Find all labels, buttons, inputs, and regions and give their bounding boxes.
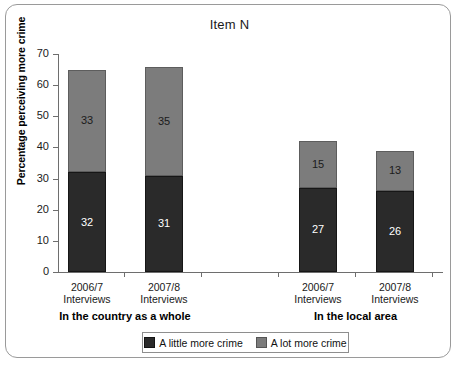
bar-country-2007-8[interactable]: 35 31 [145, 67, 183, 273]
bar-local-2006-7[interactable]: 15 27 [299, 141, 337, 272]
y-tick-70 [53, 54, 58, 55]
y-tick-60 [53, 85, 58, 86]
bar-local-2007-8[interactable]: 13 26 [376, 151, 414, 273]
x-category-label-line1: 2006/7 [283, 281, 353, 293]
legend-swatch-icon [256, 337, 267, 348]
y-tick-30 [53, 179, 58, 180]
x-category-label-line1: 2007/8 [360, 281, 430, 293]
bar-value-label-top: 15 [312, 159, 324, 170]
bar-value-label-bottom: 26 [389, 226, 401, 237]
bar-segment-a-lot-more-crime[interactable]: 33 [68, 70, 106, 173]
y-tick-10 [53, 241, 58, 242]
x-category-label-local-2006-7: 2006/7 Interviews [283, 281, 353, 305]
y-tick-label-60: 60 [5, 78, 49, 90]
bar-value-label-bottom: 31 [158, 218, 170, 229]
legend-label: A lot more crime [271, 337, 347, 349]
bar-segment-a-little-more-crime[interactable]: 26 [376, 191, 414, 272]
y-tick-label-10: 10 [5, 234, 49, 246]
y-tick-20 [53, 210, 58, 211]
bar-segment-a-lot-more-crime[interactable]: 35 [145, 67, 183, 176]
x-category-label-country-2006-7: 2006/7 Interviews [52, 281, 122, 305]
y-tick-50 [53, 116, 58, 117]
bar-value-label-top: 13 [389, 165, 401, 176]
legend-label: A little more crime [159, 337, 242, 349]
x-category-label-line2: Interviews [283, 293, 353, 305]
bar-value-label-top: 33 [81, 115, 93, 126]
legend-item-a-lot-more-crime[interactable]: A lot more crime [256, 337, 347, 349]
x-category-label-line2: Interviews [360, 293, 430, 305]
chart-legend: A little more crime A lot more crime [142, 332, 349, 353]
bar-value-label-bottom: 32 [81, 217, 93, 228]
legend-swatch-icon [144, 337, 155, 348]
x-category-label-line1: 2007/8 [129, 281, 199, 293]
y-tick-label-70: 70 [5, 47, 49, 59]
bar-value-label-bottom: 27 [312, 224, 324, 235]
bar-segment-a-little-more-crime[interactable]: 31 [145, 176, 183, 273]
bar-value-label-top: 35 [158, 116, 170, 127]
x-category-label-country-2007-8: 2007/8 Interviews [129, 281, 199, 305]
y-tick-label-20: 20 [5, 203, 49, 215]
legend-item-a-little-more-crime[interactable]: A little more crime [144, 337, 242, 349]
x-tick-5 [432, 272, 433, 277]
x-category-label-line1: 2006/7 [52, 281, 122, 293]
x-category-label-local-2007-8: 2007/8 Interviews [360, 281, 430, 305]
y-tick-label-0: 0 [5, 265, 49, 277]
group-label-country: In the country as a whole [35, 310, 215, 322]
x-tick-4 [355, 272, 356, 277]
bar-country-2006-7[interactable]: 33 32 [68, 70, 106, 272]
bar-segment-a-little-more-crime[interactable]: 27 [299, 188, 337, 272]
chart-figure: Item N Percentage perceiving more crime … [0, 0, 459, 365]
x-category-label-line2: Interviews [129, 293, 199, 305]
y-tick-label-50: 50 [5, 109, 49, 121]
bar-segment-a-lot-more-crime[interactable]: 13 [376, 151, 414, 192]
x-tick-1 [124, 272, 125, 277]
y-tick-0 [53, 272, 58, 273]
bar-segment-a-little-more-crime[interactable]: 32 [68, 172, 106, 272]
x-tick-2 [201, 272, 202, 277]
x-category-label-line2: Interviews [52, 293, 122, 305]
y-axis-line [58, 54, 59, 273]
chart-title: Item N [0, 17, 459, 32]
group-label-local: In the local area [278, 310, 433, 322]
x-tick-3 [278, 272, 279, 277]
y-tick-label-30: 30 [5, 172, 49, 184]
x-axis-line [58, 272, 443, 273]
bar-segment-a-lot-more-crime[interactable]: 15 [299, 141, 337, 188]
y-tick-label-40: 40 [5, 140, 49, 152]
y-tick-40 [53, 147, 58, 148]
